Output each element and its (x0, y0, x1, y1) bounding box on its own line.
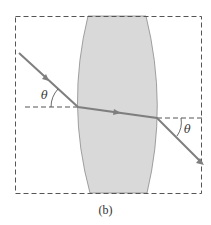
angle-arc-right (177, 118, 181, 136)
lens-refraction-diagram: θ θ (0, 0, 211, 225)
lens (77, 16, 157, 193)
angle-label-right: θ (184, 123, 191, 136)
angle-arc-left (51, 89, 58, 107)
figure-caption: (b) (0, 203, 211, 218)
angle-label-left: θ (41, 89, 48, 102)
